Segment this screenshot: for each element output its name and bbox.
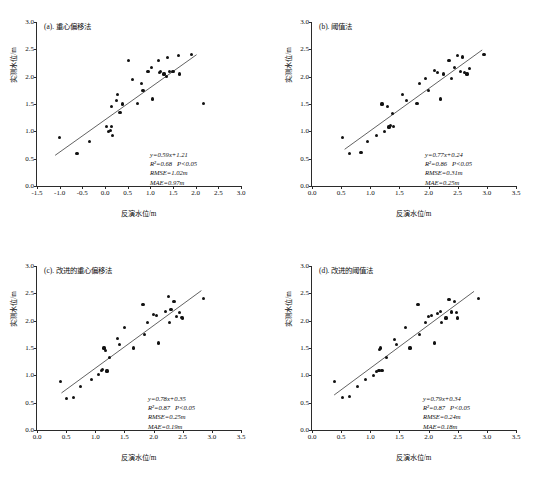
panel-a-x-axis-label: 反演水位/m (36, 208, 241, 218)
panel-b-equation: y=0.77x+0.24 (425, 150, 472, 159)
data-point (157, 341, 160, 344)
data-point (164, 310, 167, 313)
panel-d-y-tick-label: 2.5 (300, 289, 309, 297)
data-point (465, 72, 468, 75)
panel-d-y-tick-label: 3.0 (300, 262, 309, 270)
panel-d-rmse: RMSE=0.24m (423, 412, 470, 421)
panel-c-y-tick-label: 1.0 (25, 371, 34, 379)
data-point (140, 82, 143, 85)
data-point (65, 397, 68, 400)
panel-d-x-tick-label: 1.0 (366, 433, 375, 441)
data-point (165, 75, 168, 78)
panel-c-y-tick-label: 2.0 (25, 317, 34, 325)
data-point (430, 314, 433, 317)
panel-a-y-tick-label: 1.5 (25, 100, 34, 108)
panel-c-x-tick-label: 1.5 (120, 433, 129, 441)
panel-d-y-tick-label: 1.0 (300, 371, 309, 379)
data-point (151, 97, 154, 100)
panel-d-r-squared: R²=0.87 (423, 404, 445, 411)
panel-b-x-tick-label: 2.5 (453, 189, 462, 197)
data-point (433, 341, 436, 344)
data-point (167, 295, 170, 298)
data-point (391, 112, 394, 115)
panel-a-r2-p: R²=0.68 P<0.05 (150, 159, 197, 168)
panel-b-y-tick-label: 0.5 (300, 155, 309, 163)
data-point (157, 59, 160, 62)
data-point (131, 78, 134, 81)
data-point (118, 111, 121, 114)
data-point (459, 70, 462, 73)
panel-c-y-tick-label: 1.5 (25, 344, 34, 352)
panel-a-x-tick-label: 3.0 (237, 189, 246, 197)
panel-a-rmse: RMSE=1.02m (150, 168, 197, 177)
data-point (442, 72, 445, 75)
data-point (333, 380, 336, 383)
panel-c: (c). 改进的重心偏移法 实测水位/m 0.00.51.01.52.02.53… (0, 244, 274, 487)
panel-a-x-tick-label: 1.0 (146, 189, 155, 197)
panel-c-y-tick-label: 2.5 (25, 289, 34, 297)
panel-b-r-squared: R²=0.86 (425, 160, 447, 167)
data-point (155, 314, 158, 317)
panel-c-r2-p: R²=0.87 P<0.05 (148, 403, 195, 412)
data-point (72, 396, 75, 399)
data-point (109, 129, 112, 132)
data-point (105, 369, 108, 372)
panel-d-x-tick-label: 3.5 (512, 433, 521, 441)
panel-a-mae: MAE=0.97m (150, 178, 197, 187)
panel-d-y-axis-label: 实测水位/m (283, 264, 293, 354)
panel-d-x-tick-label: 1.5 (395, 433, 404, 441)
panel-a-y-tick-label: 2.0 (25, 73, 34, 81)
panel-a-x-tick-label: 0.5 (123, 189, 132, 197)
panel-a-y-tick-label: 1.0 (25, 127, 34, 135)
data-point (146, 70, 149, 73)
data-point (468, 67, 471, 70)
panel-a-x-tick-label: 2.0 (191, 189, 200, 197)
panel-c-mae: MAE=0.19m (148, 422, 195, 431)
panel-a-r-squared: R²=0.68 (150, 160, 172, 167)
data-point (110, 125, 113, 128)
panel-d: (d). 改进的阈值法 实测水位/m 0.00.51.01.52.02.53.0… (275, 244, 549, 487)
panel-c-plot-area: 0.00.51.01.52.02.53.00.00.51.01.52.02.53… (36, 266, 241, 431)
panel-d-mae: MAE=0.18m (423, 422, 470, 431)
panel-a-x-tick-label: 2.5 (214, 189, 223, 197)
panel-d-x-tick-label: 2.0 (424, 433, 433, 441)
panel-d-y-tick-label: 0.5 (300, 399, 309, 407)
panel-d-y-tick-label: 1.5 (300, 344, 309, 352)
panel-b-p-value: P<0.05 (452, 160, 472, 167)
data-point (132, 346, 135, 349)
panel-a: (a). 重心偏移法 实测水位/m 0.00.51.01.52.02.53.0-… (0, 0, 274, 243)
panel-b-x-tick-label: 1.5 (395, 189, 404, 197)
panel-b-y-tick-label: 3.0 (300, 18, 309, 26)
panel-b-x-tick-label: 3.0 (482, 189, 491, 197)
data-point (121, 102, 124, 105)
panel-b-rmse: RMSE=0.31m (425, 168, 472, 177)
data-point (171, 70, 174, 73)
panel-b: (b). 阈值法 实测水位/m 0.00.51.01.52.02.53.00.0… (275, 0, 549, 243)
panel-b-plot-area: 0.00.51.01.52.02.53.00.00.51.01.52.02.53… (311, 22, 516, 187)
panel-a-x-tick-label: -1.0 (54, 189, 65, 197)
panel-c-x-tick-label: 0.5 (62, 433, 71, 441)
panel-c-p-value: P<0.05 (175, 404, 195, 411)
data-point (439, 310, 442, 313)
panel-c-regression-line (37, 266, 241, 430)
data-point (395, 343, 398, 346)
panel-d-equation: y=0.79x+0.34 (423, 394, 470, 403)
panel-c-x-axis-label: 反演水位/m (36, 452, 241, 462)
panel-b-x-tick-label: 1.0 (366, 189, 375, 197)
panel-b-y-tick-label: 1.5 (300, 100, 309, 108)
data-point (456, 316, 459, 319)
data-point (150, 66, 153, 69)
panel-a-regression-line (37, 22, 241, 186)
panel-a-y-axis-label: 实测水位/m (8, 20, 18, 110)
panel-d-x-tick-label: 3.0 (482, 433, 491, 441)
data-point (375, 134, 378, 137)
data-point (385, 356, 388, 359)
panel-b-y-tick-label: 1.0 (300, 127, 309, 135)
data-point (380, 369, 383, 372)
panel-c-equation: y=0.78x+0.35 (148, 394, 195, 403)
panel-a-x-tick-label: 1.5 (169, 189, 178, 197)
data-point (447, 59, 450, 62)
panel-a-y-tick-label: 3.0 (25, 18, 34, 26)
panel-b-x-tick-label: 0.5 (337, 189, 346, 197)
panel-a-equation: y=0.59x+1.21 (150, 150, 197, 159)
